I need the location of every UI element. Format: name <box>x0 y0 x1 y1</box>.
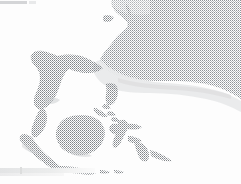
bottom-left-gray-band-lower <box>0 173 64 176</box>
top-left-gray-nub <box>29 1 36 4</box>
land-wash-sumatra <box>22 142 40 154</box>
land-wash-borneo-south <box>70 150 92 157</box>
land-wash-indochina-south <box>44 97 60 104</box>
land-soft-wash-layer <box>0 0 241 184</box>
top-left-gray-bar <box>0 1 27 4</box>
map-canvas[interactable] <box>0 0 241 184</box>
bottom-left-tick-mark <box>20 167 22 174</box>
